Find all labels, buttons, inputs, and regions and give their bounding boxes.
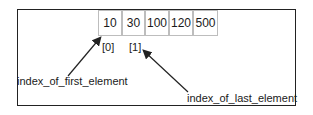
arrows	[0, 0, 313, 115]
arrow-first-icon	[68, 38, 100, 76]
arrow-last-icon	[144, 51, 188, 92]
